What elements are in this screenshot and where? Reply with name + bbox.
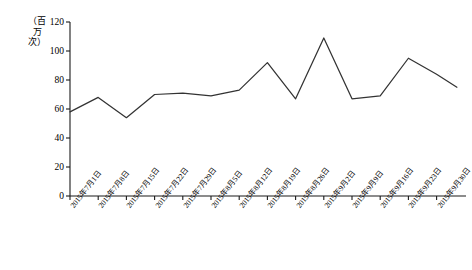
- y-tick-label: 0: [38, 191, 64, 201]
- y-tick-label: 40: [38, 133, 64, 143]
- data-series-line: [70, 38, 457, 118]
- y-tick-label: 60: [38, 104, 64, 114]
- y-tick-label: 100: [38, 46, 64, 56]
- plot-area: [0, 0, 472, 270]
- y-tick-label: 80: [38, 75, 64, 85]
- y-tick-label: 20: [38, 162, 64, 172]
- y-tick-label: 120: [38, 17, 64, 27]
- y-axis-ticks: [66, 22, 70, 196]
- line-chart: （百万次） 020406080100120 2015年7月1日2015年7月8日…: [0, 0, 472, 270]
